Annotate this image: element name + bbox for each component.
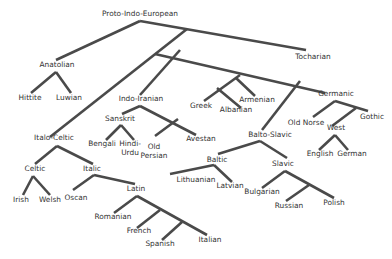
- node-label-english: English: [307, 149, 334, 158]
- tree-edge: [35, 146, 57, 164]
- language-tree-diagram: Proto-Indo-EuropeanAnatolianHittiteLuwia…: [0, 0, 392, 259]
- node-label-greek: Greek: [190, 101, 213, 110]
- node-label-irish: Irish: [13, 195, 29, 204]
- tree-edge: [162, 222, 182, 240]
- node-label-slavic: Slavic: [272, 159, 294, 168]
- tree-edge: [218, 141, 260, 154]
- node-label-avestan: Avestan: [186, 134, 216, 143]
- node-label-gothic: Gothic: [360, 112, 384, 121]
- tree-edge: [155, 119, 178, 136]
- node-label-italian: Italian: [199, 235, 222, 244]
- tree-edge: [170, 165, 214, 174]
- node-label-latin: Latin: [127, 184, 146, 193]
- tree-edge: [31, 72, 56, 93]
- node-label-albanian: Albanian: [220, 105, 253, 114]
- tree-edge: [56, 72, 71, 93]
- tree-edge: [285, 171, 334, 198]
- node-label-polish: Polish: [323, 198, 345, 207]
- tree-edge: [94, 175, 135, 184]
- tree-edge: [114, 196, 137, 213]
- node-label-welsh: Welsh: [39, 195, 61, 204]
- tree-edge: [262, 171, 285, 188]
- tree-edge: [260, 141, 287, 158]
- node-label-hindi-urdu-line2: Urdu: [121, 148, 139, 157]
- tree-labels: Proto-Indo-EuropeanAnatolianHittiteLuwia…: [13, 9, 384, 248]
- node-label-bulgarian: Bulgarian: [244, 187, 280, 196]
- tree-edge: [140, 50, 180, 95]
- node-label-spanish: Spanish: [145, 239, 174, 248]
- tree-edge: [286, 185, 309, 201]
- tree-edge: [214, 165, 232, 182]
- tree-edge: [23, 176, 33, 195]
- node-label-latvian: Latvian: [216, 181, 244, 190]
- node-label-balto-slavic: Balto-Slavic: [248, 130, 292, 139]
- node-label-pie: Proto-Indo-European: [102, 9, 178, 18]
- node-label-germanic: Germanic: [318, 89, 354, 98]
- node-label-indo-iranian: Indo-Iranian: [119, 94, 164, 103]
- tree-edge: [319, 135, 335, 150]
- tree-edge: [236, 78, 255, 96]
- tree-edge: [73, 175, 94, 190]
- tree-edge: [33, 176, 50, 195]
- tree-edge: [335, 101, 368, 111]
- tree-edge: [57, 146, 93, 164]
- node-label-hindi-urdu: Hindi-: [119, 139, 141, 148]
- tree-edge: [56, 21, 140, 60]
- node-label-lithuanian: Lithuanian: [177, 175, 216, 184]
- node-label-french: French: [127, 226, 152, 235]
- node-label-old-norse: Old Norse: [288, 118, 325, 127]
- tree-edge: [106, 125, 121, 140]
- node-label-german: German: [337, 149, 367, 158]
- node-label-romanian: Romanian: [94, 212, 131, 221]
- tree-edge: [204, 75, 240, 101]
- node-label-oscan: Oscan: [65, 193, 88, 202]
- node-label-celtic: Celtic: [25, 164, 46, 173]
- node-label-old-persian-line2: Persian: [141, 151, 168, 160]
- tree-edge: [121, 125, 134, 140]
- tree-edge: [313, 101, 335, 117]
- node-label-old-persian: Old: [148, 142, 161, 151]
- node-label-russian: Russian: [275, 201, 304, 210]
- tree-edge: [140, 106, 196, 135]
- node-label-hittite: Hittite: [19, 93, 42, 102]
- node-label-luwian: Luwian: [56, 93, 82, 102]
- node-label-tocharian: Tocharian: [294, 52, 331, 61]
- tree-edge: [335, 135, 348, 150]
- node-label-bengali: Bengali: [88, 139, 116, 148]
- tree-edge: [122, 106, 140, 114]
- node-label-west: West: [327, 123, 345, 132]
- node-label-sanskrit: Sanskrit: [105, 114, 135, 123]
- node-label-armenian: Armenian: [239, 95, 275, 104]
- node-label-baltic: Baltic: [207, 155, 228, 164]
- node-label-italic: Italic: [83, 164, 101, 173]
- node-label-italo-celtic: Italo-Celtic: [34, 133, 74, 142]
- node-label-anatolian: Anatolian: [39, 60, 74, 69]
